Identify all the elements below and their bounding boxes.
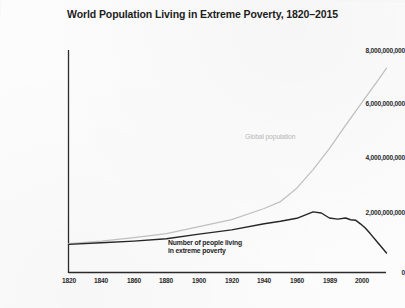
y-tick-label: 4,000,000,000 [343, 154, 405, 161]
series-annotation-global-population: Global population [245, 133, 295, 141]
series-annotation-line-2: in extreme poverty [168, 247, 242, 255]
y-tick-label: 8,000,000,000 [343, 47, 405, 54]
series-line-global-population [69, 68, 387, 244]
series-annotation-line-1: Number of people living [168, 239, 242, 247]
y-tick-label: 2,000,000,000 [343, 208, 405, 215]
y-tick-label: 0 [343, 269, 405, 276]
chart-figure: World Population Living in Extreme Pover… [0, 0, 405, 308]
x-tick-label: 2000 [342, 277, 382, 284]
series-annotation-extreme-poverty: Number of people living in extreme pover… [168, 239, 242, 256]
y-tick-label: 6,000,000,000 [343, 100, 405, 107]
